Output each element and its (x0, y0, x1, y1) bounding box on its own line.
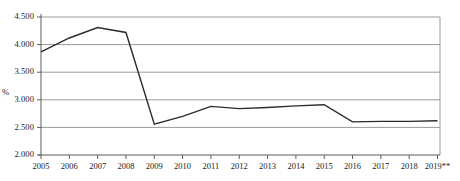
x-tick-label-2005: 2005 (33, 162, 50, 171)
data-series-line (41, 27, 438, 124)
line-chart: 4.500 4.000 3.500 3.000 2.500 2.000 % 20… (0, 0, 460, 181)
y-tick-label-3500: 3.500 (0, 67, 34, 76)
x-tick-label-2019: 2019** (425, 162, 451, 171)
x-tick-label-2006: 2006 (61, 162, 78, 171)
y-axis-unit-label: % (2, 88, 9, 97)
x-tick-label-2016: 2016 (344, 162, 361, 171)
gridlines (41, 17, 440, 127)
y-tick-label-2500: 2.500 (0, 123, 34, 132)
x-tick-label-2010: 2010 (174, 162, 191, 171)
y-axis-ticks (37, 17, 41, 155)
chart-plot-area (0, 0, 460, 181)
x-axis-ticks (41, 155, 438, 159)
x-tick-label-2014: 2014 (287, 162, 304, 171)
x-tick-label-2015: 2015 (316, 162, 333, 171)
x-tick-label-2007: 2007 (89, 162, 106, 171)
x-tick-label-2013: 2013 (259, 162, 276, 171)
y-tick-label-4500: 4.500 (0, 12, 34, 21)
x-tick-label-2018: 2018 (401, 162, 418, 171)
x-tick-label-2017: 2017 (372, 162, 389, 171)
x-tick-label-2011: 2011 (203, 162, 220, 171)
x-tick-label-2009: 2009 (146, 162, 163, 171)
y-tick-label-4000: 4.000 (0, 40, 34, 49)
x-tick-label-2008: 2008 (117, 162, 134, 171)
x-tick-label-2012: 2012 (231, 162, 248, 171)
y-tick-label-2000: 2.000 (0, 150, 34, 159)
